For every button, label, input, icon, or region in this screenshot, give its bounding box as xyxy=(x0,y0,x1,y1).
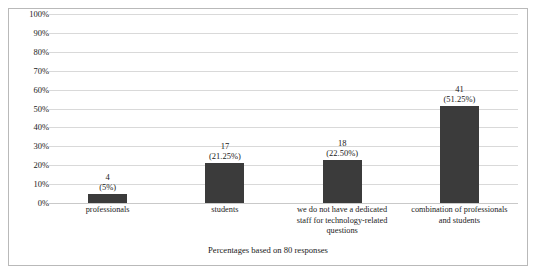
axis-baseline xyxy=(49,203,518,204)
chart-figure: 100%90%80%70%60%50%40%30%20%10%0% 4(5%)1… xyxy=(8,8,528,266)
bar-data-label: 4(5%) xyxy=(49,172,166,192)
plot-area: 4(5%)17(21.25%)18(22.50%)41(51.25%) xyxy=(49,14,518,203)
bar-percent-value: (5%) xyxy=(49,182,166,192)
plot-region: 100%90%80%70%60%50%40%30%20%10%0% 4(5%)1… xyxy=(9,9,527,214)
bar-rect xyxy=(323,160,362,203)
bar-data-label: 41(51.25%) xyxy=(401,84,518,104)
bar-count-value: 4 xyxy=(49,172,166,182)
x-axis-category-label: students xyxy=(166,205,283,237)
y-tick-label: 90% xyxy=(9,28,49,37)
bar-data-label: 17(21.25%) xyxy=(166,141,283,161)
bar-percent-value: (51.25%) xyxy=(401,94,518,104)
bar-count-value: 18 xyxy=(284,138,401,148)
y-tick-label: 0% xyxy=(9,199,49,208)
bar-slot: 4(5%) xyxy=(49,14,166,203)
bar-data-label: 18(22.50%) xyxy=(284,138,401,158)
x-axis-category-label: we do not have a dedicatedstaff for tech… xyxy=(284,205,401,237)
bar-rect xyxy=(88,194,127,203)
y-tick-label: 30% xyxy=(9,142,49,151)
y-axis: 100%90%80%70%60%50%40%30%20%10%0% xyxy=(9,14,49,203)
bar-slot: 41(51.25%) xyxy=(401,14,518,203)
bar-series: 4(5%)17(21.25%)18(22.50%)41(51.25%) xyxy=(49,14,518,203)
y-tick-label: 100% xyxy=(9,10,49,19)
bar-slot: 17(21.25%) xyxy=(166,14,283,203)
bar-percent-value: (22.50%) xyxy=(284,148,401,158)
y-tick-label: 50% xyxy=(9,104,49,113)
chart-caption: Percentages based on 80 responses xyxy=(9,245,527,256)
x-axis-category-label: professionals xyxy=(49,205,166,237)
bar-rect xyxy=(440,106,479,203)
bar-count-value: 41 xyxy=(401,84,518,94)
y-tick-label: 40% xyxy=(9,123,49,132)
y-tick-label: 10% xyxy=(9,180,49,189)
y-tick-label: 80% xyxy=(9,47,49,56)
bar-slot: 18(22.50%) xyxy=(284,14,401,203)
bar-percent-value: (21.25%) xyxy=(166,151,283,161)
y-tick-label: 60% xyxy=(9,85,49,94)
y-tick-label: 20% xyxy=(9,161,49,170)
bar-rect xyxy=(205,163,244,203)
bar-count-value: 17 xyxy=(166,141,283,151)
x-axis-category-label: combination of professionalsand students xyxy=(401,205,518,237)
y-tick-label: 70% xyxy=(9,66,49,75)
x-axis-categories: professionalsstudentswe do not have a de… xyxy=(49,205,518,237)
